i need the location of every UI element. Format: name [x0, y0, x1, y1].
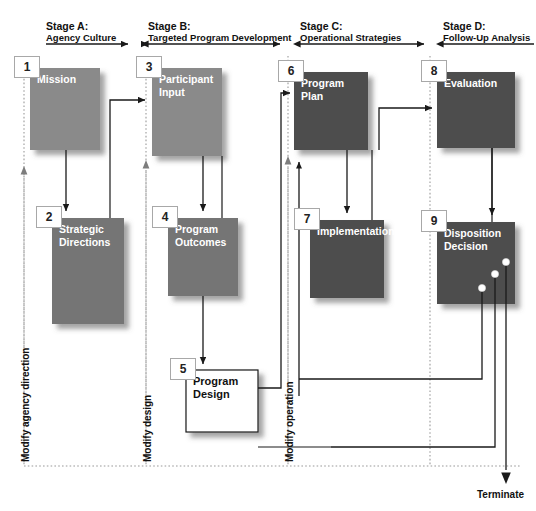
- node-7-number: 7: [294, 208, 320, 230]
- node-1-mission[interactable]: Mission: [30, 68, 100, 150]
- node-8-label: Evaluation: [444, 77, 512, 90]
- node-1-number: 1: [14, 56, 40, 78]
- node-4-number: 4: [152, 206, 178, 228]
- node-3-number: 3: [136, 56, 162, 78]
- node-6-label: Program Plan: [301, 77, 365, 103]
- node-2-number: 2: [36, 206, 62, 228]
- diagram-canvas: Stage A: Agency Culture Stage B: Targete…: [0, 0, 536, 511]
- node-2-label: Strategic Directions: [59, 223, 121, 249]
- node-6-number: 6: [278, 60, 304, 82]
- feedback-label-modify-design: Modify design: [142, 395, 153, 462]
- node-2-strategic-directions[interactable]: Strategic Directions: [52, 218, 124, 324]
- terminate-label: Terminate: [477, 489, 524, 500]
- node-4-program-outcomes[interactable]: Program Outcomes: [168, 218, 238, 296]
- node-4-label: Program Outcomes: [175, 223, 235, 249]
- node-9-disposition-decision[interactable]: Disposition Decision: [437, 222, 515, 304]
- node-7-implementation[interactable]: Implementation: [310, 220, 384, 298]
- node-8-number: 8: [421, 60, 447, 82]
- node-8-evaluation[interactable]: Evaluation: [437, 72, 515, 148]
- node-1-label: Mission: [37, 73, 97, 86]
- node-9-label: Disposition Decision: [444, 227, 512, 253]
- node-6-program-plan[interactable]: Program Plan: [294, 72, 368, 150]
- node-3-label: Participant Input: [159, 73, 219, 99]
- node-9-number: 9: [421, 210, 447, 232]
- feedback-label-modify-operation: Modify operation: [284, 381, 295, 462]
- node-5-program-design[interactable]: Program Design: [186, 370, 258, 432]
- node-7-label: Implementation: [317, 225, 381, 238]
- feedback-label-modify-agency-direction: Modify agency direction: [20, 348, 31, 462]
- node-5-number: 5: [170, 358, 196, 380]
- node-3-participant-input[interactable]: Participant Input: [152, 68, 222, 156]
- node-5-label: Program Design: [193, 375, 255, 401]
